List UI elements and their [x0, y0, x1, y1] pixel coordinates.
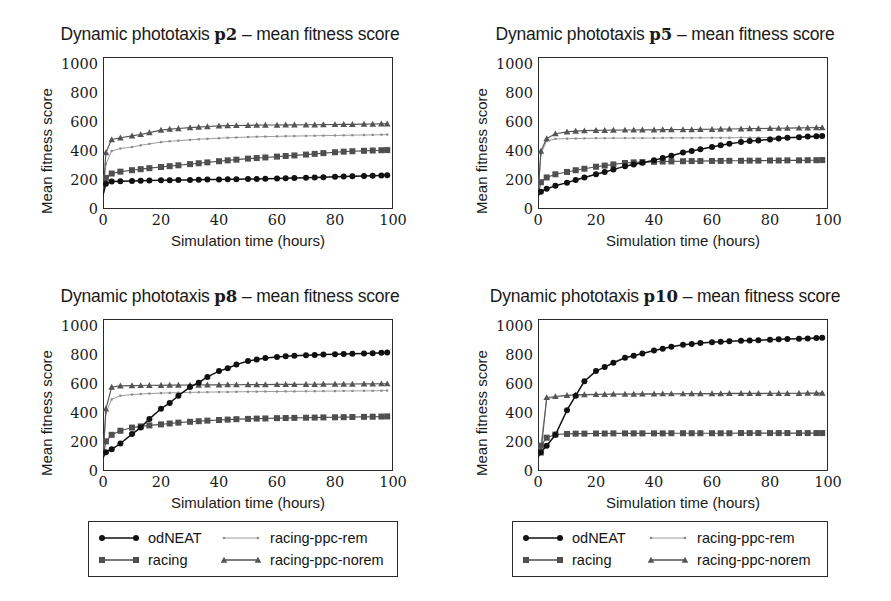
title-prefix: Dynamic phototaxis: [61, 24, 215, 44]
legend-item-racing-ppc-norem[interactable]: racing-ppc-norem: [646, 550, 817, 570]
x-axis-label-p5: Simulation time (hours): [538, 232, 828, 249]
triangle-marker-sample: [646, 553, 690, 567]
x-tick: 100: [814, 474, 842, 490]
title-prefix: Dynamic phototaxis: [61, 286, 215, 306]
y-tick: 800: [505, 85, 533, 101]
x-axis-label-p2: Simulation time (hours): [103, 232, 393, 249]
y-tick: 400: [70, 405, 98, 421]
x-tick: 60: [703, 474, 721, 490]
square-marker-sample: [97, 553, 141, 567]
series-canvas-p10: [538, 319, 828, 471]
y-tick: 400: [505, 405, 533, 421]
x-tick: 20: [587, 474, 605, 490]
panel-title-p5: Dynamic phototaxis p5 – mean fitness sco…: [455, 24, 875, 45]
y-tick: 400: [70, 143, 98, 159]
title-variable: p2: [214, 25, 237, 44]
legend-item-racing-ppc-rem[interactable]: racing-ppc-rem: [219, 528, 387, 548]
y-tick: 600: [505, 376, 533, 392]
dot-marker-sample: [219, 531, 263, 545]
y-tick: 200: [70, 434, 98, 450]
plot-area-p2: 0 200 400 600 800 1000 0 20 40 60 80 100: [103, 57, 393, 209]
panel-p8: Dynamic phototaxis p8 – mean fitness sco…: [20, 286, 440, 516]
y-tick: 1000: [61, 56, 98, 72]
plot-area-p5: 0 200 400 600 800 1000 0 20 40 60 80 100: [538, 57, 828, 209]
legend-item-odneat[interactable]: odNEAT: [521, 528, 632, 548]
y-tick: 800: [70, 85, 98, 101]
y-tick: 1000: [496, 318, 533, 334]
x-tick: 80: [761, 474, 779, 490]
x-tick: 0: [98, 474, 107, 490]
title-prefix: Dynamic phototaxis: [490, 286, 644, 306]
dot-marker-sample: [646, 531, 690, 545]
y-axis-label-p10: Mean fitness score: [473, 350, 490, 476]
x-tick: 40: [210, 474, 228, 490]
legend-left: odNEAT racing-ppc-rem racing racing-ppc-…: [88, 521, 398, 577]
legend-label: racing: [148, 552, 188, 568]
panel-title-p2: Dynamic phototaxis p2 – mean fitness sco…: [20, 24, 440, 45]
x-tick: 80: [761, 212, 779, 228]
y-tick: 0: [524, 463, 533, 479]
title-suffix: – mean fitness score: [237, 24, 399, 44]
legend-right: odNEAT racing-ppc-rem racing racing-ppc-…: [512, 521, 828, 577]
panel-p10: Dynamic phototaxis p10 – mean fitness sc…: [455, 286, 875, 516]
y-axis-label-p2: Mean fitness score: [38, 88, 55, 214]
legend-label: racing: [572, 552, 612, 568]
title-variable: p8: [214, 287, 237, 306]
legend-label: racing-ppc-norem: [270, 552, 384, 568]
triangle-marker-sample: [219, 553, 263, 567]
panel-p2: Dynamic phototaxis p2 – mean fitness sco…: [20, 24, 440, 274]
x-tick: 40: [645, 212, 663, 228]
y-tick: 200: [505, 172, 533, 188]
legend-label: odNEAT: [148, 530, 202, 546]
panel-p5: Dynamic phototaxis p5 – mean fitness sco…: [455, 24, 875, 274]
x-tick: 100: [379, 474, 407, 490]
x-tick: 60: [268, 212, 286, 228]
y-tick: 1000: [61, 318, 98, 334]
x-axis-label-p10: Simulation time (hours): [538, 494, 828, 511]
circle-marker-sample: [97, 531, 141, 545]
x-tick: 0: [533, 212, 542, 228]
x-tick: 80: [326, 474, 344, 490]
y-tick: 200: [70, 172, 98, 188]
x-tick: 60: [268, 474, 286, 490]
y-axis-label-p5: Mean fitness score: [473, 88, 490, 214]
x-tick: 100: [379, 212, 407, 228]
title-suffix: – mean fitness score: [678, 286, 840, 306]
title-variable: p5: [649, 25, 672, 44]
y-tick: 0: [524, 201, 533, 217]
series-canvas-p8: [103, 319, 393, 471]
circle-marker-sample: [521, 531, 565, 545]
figure-root: Dynamic phototaxis p2 – mean fitness sco…: [0, 0, 891, 601]
y-tick: 800: [505, 347, 533, 363]
legend-label: odNEAT: [572, 530, 626, 546]
x-tick: 20: [152, 474, 170, 490]
legend-item-racing-ppc-rem[interactable]: racing-ppc-rem: [646, 528, 817, 548]
title-suffix: – mean fitness score: [237, 286, 399, 306]
title-suffix: – mean fitness score: [672, 24, 834, 44]
panel-title-p8: Dynamic phototaxis p8 – mean fitness sco…: [20, 286, 440, 307]
x-tick: 60: [703, 212, 721, 228]
title-prefix: Dynamic phototaxis: [496, 24, 650, 44]
y-tick: 600: [70, 376, 98, 392]
plot-area-p8: 0 200 400 600 800 1000 0 20 40 60 80 100: [103, 319, 393, 471]
legend-item-odneat[interactable]: odNEAT: [97, 528, 205, 548]
x-tick: 100: [814, 212, 842, 228]
y-tick: 800: [70, 347, 98, 363]
panel-title-p10: Dynamic phototaxis p10 – mean fitness sc…: [455, 286, 875, 307]
x-tick: 0: [533, 474, 542, 490]
legend-label: racing-ppc-rem: [270, 530, 368, 546]
legend-label: racing-ppc-rem: [697, 530, 795, 546]
legend-label: racing-ppc-norem: [697, 552, 811, 568]
y-tick: 400: [505, 143, 533, 159]
title-variable: p10: [644, 287, 679, 306]
y-tick: 600: [70, 114, 98, 130]
legend-item-racing-ppc-norem[interactable]: racing-ppc-norem: [219, 550, 387, 570]
legend-item-racing[interactable]: racing: [521, 550, 632, 570]
plot-area-p10: 0 200 400 600 800 1000 0 20 40 60 80 100: [538, 319, 828, 471]
y-tick: 0: [89, 463, 98, 479]
legend-item-racing[interactable]: racing: [97, 550, 205, 570]
y-tick: 600: [505, 114, 533, 130]
y-tick: 1000: [496, 56, 533, 72]
x-tick: 20: [587, 212, 605, 228]
series-canvas-p2: [103, 57, 393, 209]
